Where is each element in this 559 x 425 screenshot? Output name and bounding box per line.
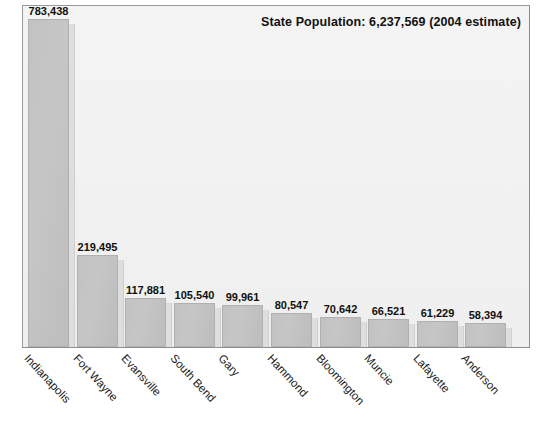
bar-muncie: 66,521 — [368, 299, 415, 347]
bar-body — [271, 313, 312, 347]
bar-hammond: 80,547 — [271, 293, 318, 347]
bar-bloomington: 70,642 — [320, 297, 367, 347]
x-tick-label: Gary — [216, 352, 242, 378]
x-tick-label: Evansville — [119, 352, 163, 398]
bar-lafayette: 61,229 — [417, 301, 464, 347]
x-tick-label: Muncie — [362, 352, 396, 387]
x-tick-label: Hammond — [265, 352, 310, 399]
plot-area: State Population: 6,237,569 (2004 estima… — [22, 5, 530, 348]
bar-value-label: 99,961 — [226, 292, 260, 303]
bar-body — [465, 323, 506, 347]
bar-value-label: 61,229 — [421, 308, 455, 319]
x-tick-label: Bloomington — [314, 352, 366, 407]
bar-value-label: 66,521 — [372, 306, 406, 317]
bar-body — [320, 317, 361, 347]
bar-shadow — [166, 303, 172, 347]
bar-value-label: 219,495 — [78, 242, 118, 253]
bar-fort-wayne: 219,495 — [77, 235, 124, 347]
bar-chart: State Population: 6,237,569 (2004 estima… — [0, 0, 559, 425]
x-tick-label: Lafayette — [411, 352, 452, 395]
bar-value-label: 105,540 — [175, 290, 215, 301]
bar-shadow — [69, 24, 75, 347]
bar-body — [368, 319, 409, 347]
x-tick-label: Fort Wayne — [71, 352, 120, 403]
bar-shadow — [506, 328, 512, 347]
bars-layer: 783,438219,495117,881105,54099,96180,547… — [23, 6, 529, 347]
bar-shadow — [215, 308, 221, 347]
bar-body — [174, 303, 215, 347]
bar-value-label: 58,394 — [469, 310, 503, 321]
x-tick-label: South Bend — [168, 352, 218, 404]
bar-shadow — [409, 324, 415, 347]
bar-south-bend: 105,540 — [174, 283, 221, 347]
bar-body — [28, 19, 69, 347]
bar-value-label: 70,642 — [324, 304, 358, 315]
bar-value-label: 117,881 — [126, 285, 165, 296]
bar-shadow — [263, 310, 269, 347]
bar-value-label: 783,438 — [29, 6, 69, 17]
bar-body — [77, 255, 118, 347]
bar-shadow — [458, 326, 464, 347]
x-axis-labels: IndianapolisFort WayneEvansvilleSouth Be… — [0, 348, 559, 425]
x-tick-label: Indianapolis — [22, 352, 73, 405]
bar-gary: 99,961 — [222, 285, 269, 347]
bar-body — [417, 321, 458, 347]
x-tick-label: Anderson — [459, 352, 501, 396]
bar-shadow — [312, 318, 318, 347]
bar-shadow — [361, 322, 367, 347]
bar-shadow — [118, 260, 124, 347]
bar-body — [222, 305, 263, 347]
bar-anderson: 58,394 — [465, 303, 512, 347]
bar-evansville: 117,881 — [125, 278, 172, 347]
bar-indianapolis: 783,438 — [28, 0, 75, 347]
bar-value-label: 80,547 — [275, 300, 309, 311]
bar-body — [125, 298, 166, 347]
